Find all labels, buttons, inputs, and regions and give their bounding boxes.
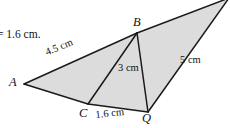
leftover-text-fragment: = 1.6 cm.	[0, 29, 41, 41]
measurement-label-bc: 3 cm	[118, 63, 139, 74]
vertex-label-a: A	[9, 76, 17, 89]
vertex-label-q: Q	[142, 112, 151, 125]
vertex-label-b: B	[133, 16, 141, 29]
vertex-label-c: C	[79, 107, 87, 120]
geometry-figure-page: = 1.6 cm. 4.5 cm 3 cm 5 cm 1.6 cm A B C …	[0, 0, 230, 128]
measurement-label-bq: 5 cm	[180, 55, 201, 66]
